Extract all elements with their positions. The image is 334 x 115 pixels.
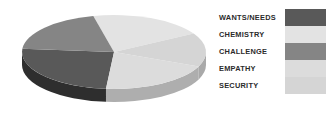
legend-swatch xyxy=(285,43,326,60)
legend-swatch xyxy=(285,9,326,26)
legend-item-chemistry[interactable]: CHEMISTRY xyxy=(219,26,334,43)
legend-label: CHEMISTRY xyxy=(219,30,285,39)
legend-swatch xyxy=(285,26,326,43)
legend-swatch xyxy=(285,60,326,77)
legend-swatch xyxy=(285,77,326,94)
pie-chart-svg xyxy=(0,0,222,115)
legend-item-security[interactable]: SECURITY xyxy=(219,77,334,94)
legend-item-empathy[interactable]: EMPATHY xyxy=(219,60,334,77)
legend-item-challenge[interactable]: CHALLENGE xyxy=(219,43,334,60)
legend-label: EMPATHY xyxy=(219,64,285,73)
chart-legend: WANTS/NEEDS CHEMISTRY CHALLENGE EMPATHY … xyxy=(219,9,334,105)
pie-chart-figure: WANTS/NEEDS CHEMISTRY CHALLENGE EMPATHY … xyxy=(0,0,334,115)
legend-label: WANTS/NEEDS xyxy=(219,13,285,22)
pie-chart-plot-area xyxy=(0,0,222,115)
legend-label: SECURITY xyxy=(219,81,285,90)
pie-slice-tops xyxy=(22,15,206,89)
legend-label: CHALLENGE xyxy=(219,47,285,56)
legend-item-wants-needs[interactable]: WANTS/NEEDS xyxy=(219,9,334,26)
